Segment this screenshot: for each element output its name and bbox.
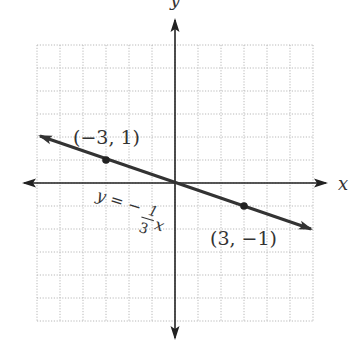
point-label-a: (−3, 1) (73, 126, 140, 148)
coordinate-graph: y x (−3, 1) (3, −1) y = − 1 3 x (0, 0, 352, 342)
y-axis-label: y (169, 0, 181, 10)
point-label-b: (3, −1) (210, 227, 277, 249)
x-axis-label: x (338, 173, 348, 194)
point-marker-b (240, 202, 248, 210)
point-marker-a (102, 156, 110, 164)
equation-prefix: y = − (93, 185, 144, 217)
equation-denominator: 3 (137, 219, 150, 237)
